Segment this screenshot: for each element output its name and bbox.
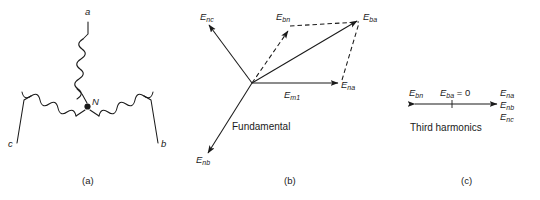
third-harmonic-label-ena: Ena: [500, 88, 514, 98]
third-harmonic-label-eba-zero: Eba = 0: [440, 88, 470, 98]
third-harmonic-label-enb: Enb: [500, 100, 514, 110]
vector-enc-line: [209, 25, 252, 83]
caption-panel-b: (b): [284, 175, 296, 186]
figure-vector-graphics: [0, 0, 540, 200]
phase-a-coil: [75, 39, 86, 99]
vector-ebn-line: [252, 31, 288, 83]
panel-a-wye-winding: [17, 22, 158, 143]
vector-label-em1: Em1: [284, 90, 300, 100]
vector-label-eba: Eba: [363, 12, 377, 22]
vector-eba-line: [252, 21, 357, 83]
terminal-label-b: b: [161, 139, 166, 149]
phase-b-lead-inner: [90, 110, 99, 116]
phase-a-lead-top: [83, 22, 88, 39]
neutral-point-dot: [84, 103, 90, 109]
terminal-label-a: a: [85, 7, 90, 17]
neutral-point-label: N: [92, 97, 99, 107]
phase-b-coil: [99, 92, 153, 116]
third-harmonic-label-enc: Enc: [500, 112, 514, 122]
vector-enb-line: [208, 83, 252, 153]
third-harmonic-label-ebn: Ebn: [409, 88, 423, 98]
panel-b-title: Fundamental: [232, 121, 290, 132]
caption-panel-a: (a): [82, 175, 94, 186]
parallelogram-right-dashed: [342, 23, 359, 80]
vector-label-enb: Enb: [196, 155, 210, 165]
vector-label-ebn: Ebn: [276, 12, 290, 22]
vector-label-enc: Enc: [200, 12, 214, 22]
panel-c-title: Third harmonics: [410, 122, 482, 133]
vector-label-ena: Ena: [341, 80, 355, 90]
figure-three-phase-winding-phasors: a b c N Enc Ebn Eba Ena Em1 Enb Fundamen…: [0, 0, 540, 200]
panel-c-third-harmonics: [415, 100, 497, 108]
panel-b-fundamental-phasors: [208, 21, 359, 153]
phase-c-lead-inner: [76, 110, 85, 116]
phase-c-lead-outer: [17, 96, 31, 143]
caption-panel-c: (c): [461, 175, 472, 186]
phase-a-lead-bottom: [77, 89, 87, 103]
phase-b-lead-outer: [144, 96, 158, 143]
phase-c-coil: [22, 92, 76, 116]
terminal-label-c: c: [8, 139, 13, 149]
